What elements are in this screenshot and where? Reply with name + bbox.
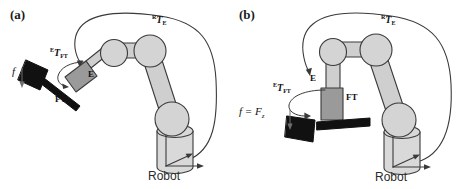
figure-robot-ft-sensor-configurations: (a)	[0, 0, 465, 189]
frame-sub-a: E	[162, 20, 166, 26]
label-force-a: f	[12, 66, 15, 80]
frame2-sub-a: FT	[60, 53, 68, 59]
robot-joint-elbow-a	[134, 35, 166, 67]
ft-sensor-b	[321, 88, 343, 120]
label-frame-robot-to-ee-a: RTE	[152, 14, 166, 26]
label-robot-base-a: Robot	[148, 170, 180, 182]
label-frame-robot-to-ee-b: RTE	[381, 14, 395, 26]
label-frame-ee-to-ft-b: ETFT	[273, 82, 291, 94]
force-symbol-b: f = F	[239, 105, 262, 117]
robot-joint-elbow-b	[360, 34, 392, 66]
robot-joint-wrist-a	[101, 40, 128, 67]
force-sub-b: z	[262, 112, 265, 120]
robot-joint-wrist-b	[320, 39, 347, 66]
panel-b: (b)	[233, 0, 465, 189]
label-end-effector-a: E	[88, 70, 94, 79]
panel-a: (a)	[0, 0, 232, 189]
label-ft-sensor-a: FT	[55, 95, 67, 104]
robot-joint-shoulder-b	[382, 103, 416, 137]
robot-joint-shoulder-a	[155, 102, 189, 136]
force-symbol-a: f	[12, 65, 15, 77]
label-robot-base-b: Robot	[375, 171, 407, 183]
label-end-effector-b: E	[310, 74, 316, 83]
label-force-b: f = Fz	[239, 106, 264, 120]
frame-sub-b: E	[391, 20, 395, 26]
panel-a-drawing	[0, 0, 232, 189]
label-ft-sensor-b: FT	[346, 93, 358, 102]
transform-arc-ee-to-ft-b	[289, 90, 325, 119]
label-frame-ee-to-ft-a: ETFT	[50, 47, 68, 59]
frame2-sub-b: FT	[283, 88, 291, 94]
